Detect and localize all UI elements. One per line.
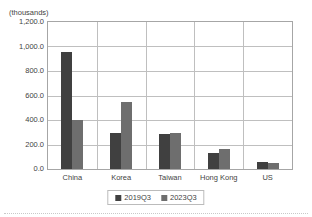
bar: [110, 133, 121, 169]
bar-group: [243, 22, 292, 169]
x-axis-tick-label: China: [48, 173, 97, 183]
legend-swatch-icon: [161, 195, 167, 201]
y-axis-tick-label: 600.0: [25, 92, 44, 100]
bar: [219, 149, 230, 169]
legend-label: 2019Q3: [124, 193, 151, 202]
x-axis-tick-label: Taiwan: [146, 173, 195, 183]
legend-entry: 2019Q3: [115, 193, 151, 202]
bar-group: [48, 22, 97, 169]
bar: [268, 163, 279, 169]
bar: [121, 102, 132, 169]
bar: [257, 162, 268, 169]
x-axis-tick-label: Hong Kong: [194, 173, 243, 183]
legend-swatch-icon: [115, 195, 121, 201]
bar-group: [97, 22, 146, 169]
bar: [61, 52, 72, 169]
bar: [208, 153, 219, 169]
y-axis-tick-label: 400.0: [25, 116, 44, 124]
legend-entry: 2023Q3: [161, 193, 197, 202]
bar-group: [146, 22, 195, 169]
y-axis-tick-label: 0.0: [34, 165, 44, 173]
y-axis-tick-label: 200.0: [25, 141, 44, 149]
bar: [170, 133, 181, 169]
legend-label: 2023Q3: [170, 193, 197, 202]
bottom-divider: [4, 213, 308, 214]
bar-chart: (thousands) 0.0200.0400.0600.0800.01,000…: [0, 0, 312, 217]
bar: [72, 120, 83, 169]
x-axis-tick-label: Korea: [97, 173, 146, 183]
y-axis-tick-label: 1,000.0: [19, 43, 44, 51]
chart-legend: 2019Q32023Q3: [107, 190, 204, 205]
axis-units-note: (thousands): [9, 8, 49, 17]
bars-layer: [48, 22, 292, 169]
y-axis-tick-label: 800.0: [25, 67, 44, 75]
bar: [159, 134, 170, 169]
y-axis-tick-label: 1,200.0: [19, 18, 44, 26]
bar-group: [194, 22, 243, 169]
x-axis-tick-label: US: [243, 173, 292, 183]
